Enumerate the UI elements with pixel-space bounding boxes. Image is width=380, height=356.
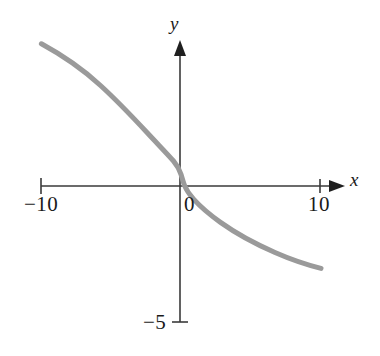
y-axis-name-label: y: [170, 14, 178, 33]
x-axis-name-label: x: [350, 170, 358, 189]
x-axis-arrowhead: [329, 180, 345, 192]
curve-path: [41, 44, 321, 269]
plot-area: [0, 0, 380, 356]
x-axis-tick-label-neg10: −10: [24, 194, 58, 215]
x-axis-tick-label-zero: 0: [184, 194, 195, 215]
y-axis-arrowhead: [174, 40, 186, 56]
graph-figure: −10 0 10 −5 y x: [0, 0, 380, 356]
x-axis-tick-label-pos10: 10: [308, 194, 330, 215]
y-axis-tick-label-neg5: −5: [143, 312, 166, 333]
